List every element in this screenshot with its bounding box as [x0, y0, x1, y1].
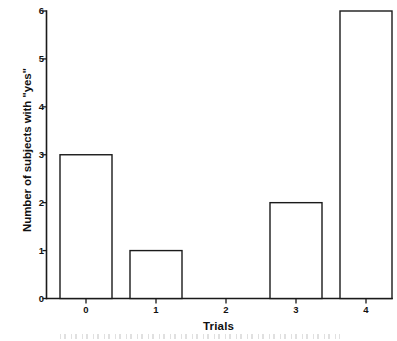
bar-series	[60, 11, 392, 299]
bar-1	[130, 251, 182, 299]
bar-4	[340, 11, 392, 299]
bar-3	[270, 203, 322, 299]
bar-chart-figure: Number of subjects with "yes" 0123456 01…	[0, 0, 397, 341]
plot-area	[0, 0, 397, 341]
bar-0	[60, 155, 112, 299]
x-axis-title: Trials	[46, 320, 391, 332]
